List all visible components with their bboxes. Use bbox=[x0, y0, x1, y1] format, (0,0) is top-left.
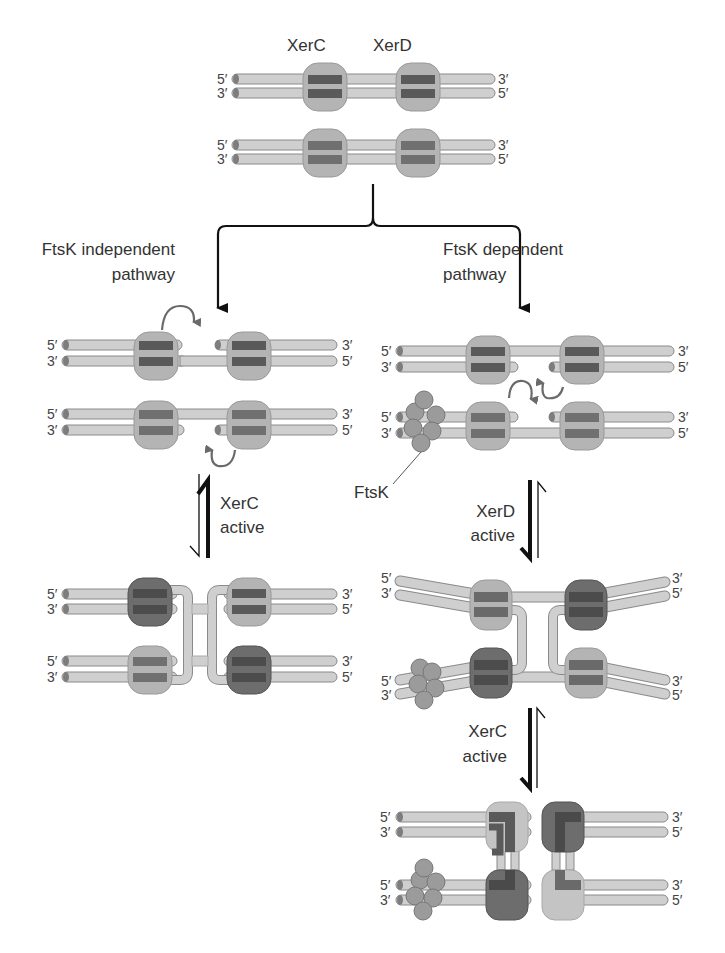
end-label: 3′ bbox=[678, 343, 689, 359]
end-label: 5′ bbox=[381, 409, 392, 425]
xerd-label: XerD bbox=[373, 36, 412, 55]
end-label: 5′ bbox=[498, 151, 509, 167]
end-label: 3′ bbox=[672, 809, 683, 825]
end-label: 5′ bbox=[498, 85, 509, 101]
end-label: 3′ bbox=[380, 824, 391, 840]
top-duplex-1: 5′ 3′ 3′ 5′ bbox=[217, 63, 509, 111]
left-holliday-junction: 5′ 3′ 3′ 5′ 5′ 3′ 3′ 5′ bbox=[47, 578, 353, 694]
right-step1-line2: active bbox=[471, 526, 515, 545]
end-label: 5′ bbox=[678, 359, 689, 375]
end-label: 3′ bbox=[678, 409, 689, 425]
end-label: 3′ bbox=[342, 406, 353, 422]
end-label: 3′ bbox=[672, 877, 683, 893]
top-labels: XerC XerD bbox=[287, 36, 412, 55]
xer-recombination-diagram: XerC XerD 5′ 3′ 3′ 5′ 5′ 3′ 3′ 5′ bbox=[0, 0, 725, 953]
right-equilibrium-arrow-2-icon bbox=[521, 708, 545, 788]
end-label: 3′ bbox=[47, 601, 58, 617]
pathway-labels: FtsK independent pathway FtsK dependent … bbox=[42, 240, 564, 284]
end-label: 3′ bbox=[47, 669, 58, 685]
end-label: 3′ bbox=[380, 892, 391, 908]
left-cleaved-complex: 5′ 3′ 3′ 5′ 5′ 3′ 3′ 5′ bbox=[47, 306, 353, 466]
end-label: 5′ bbox=[47, 653, 58, 669]
ftsk-leader-line bbox=[393, 452, 421, 484]
end-label: 5′ bbox=[342, 601, 353, 617]
left-step-line2: active bbox=[220, 518, 264, 537]
end-label: 5′ bbox=[342, 353, 353, 369]
xerc-label: XerC bbox=[287, 36, 326, 55]
end-label: 3′ bbox=[381, 359, 392, 375]
end-label: 5′ bbox=[342, 422, 353, 438]
left-equilibrium-arrow-icon bbox=[190, 474, 208, 558]
end-label: 5′ bbox=[381, 570, 392, 586]
right-cleaved-complex: 5′ 3′ 3′ 5′ 5′ 3′ 3′ 5′ bbox=[381, 336, 689, 484]
end-label: 3′ bbox=[672, 570, 683, 586]
end-label: 5′ bbox=[342, 669, 353, 685]
left-pathway-line2: pathway bbox=[112, 265, 176, 284]
end-label: 5′ bbox=[380, 877, 391, 893]
end-label: 5′ bbox=[672, 687, 683, 703]
end-label: 3′ bbox=[381, 425, 392, 441]
end-label: 5′ bbox=[678, 425, 689, 441]
right-step2-line1: XerC bbox=[468, 722, 507, 741]
end-label: 3′ bbox=[342, 653, 353, 669]
end-label: 5′ bbox=[380, 809, 391, 825]
right-step1-line1: XerD bbox=[476, 502, 515, 521]
end-label: 3′ bbox=[342, 337, 353, 353]
end-label: 5′ bbox=[672, 824, 683, 840]
ftsk-motor bbox=[409, 659, 444, 709]
right-step2-line2: active bbox=[463, 747, 507, 766]
top-duplex-2: 5′ 3′ 3′ 5′ bbox=[217, 129, 509, 177]
end-label: 5′ bbox=[47, 337, 58, 353]
end-label: 5′ bbox=[672, 585, 683, 601]
right-pathway-line2: pathway bbox=[443, 265, 507, 284]
end-label: 3′ bbox=[47, 353, 58, 369]
end-label: 3′ bbox=[217, 85, 228, 101]
ftsk-label: FtsK bbox=[354, 483, 390, 502]
end-label: 5′ bbox=[47, 406, 58, 422]
strand-exchange-arrow-icon bbox=[509, 381, 532, 399]
right-equilibrium-arrow-1-icon bbox=[521, 480, 546, 558]
right-resolved-products: 5′ 3′ 3′ 5′ 5′ 3′ 3′ 5′ bbox=[380, 802, 683, 920]
end-label: 5′ bbox=[47, 586, 58, 602]
end-label: 5′ bbox=[672, 892, 683, 908]
right-holliday-junction: 5′ 3′ 3′ 5′ 5′ 3′ 3′ 5′ bbox=[381, 570, 683, 709]
strand-exchange-arrow-icon bbox=[543, 383, 564, 398]
right-pathway-line1: FtsK dependent bbox=[443, 240, 563, 259]
strand-exchange-arrow-icon bbox=[212, 450, 235, 466]
end-label: 5′ bbox=[381, 343, 392, 359]
strand-exchange-arrow-icon bbox=[162, 306, 194, 330]
end-label: 3′ bbox=[342, 586, 353, 602]
left-step-line1: XerC bbox=[220, 494, 259, 513]
end-label: 3′ bbox=[381, 687, 392, 703]
left-pathway-line1: FtsK independent bbox=[42, 240, 176, 259]
end-label: 3′ bbox=[381, 585, 392, 601]
end-label: 3′ bbox=[47, 422, 58, 438]
end-label: 3′ bbox=[217, 151, 228, 167]
